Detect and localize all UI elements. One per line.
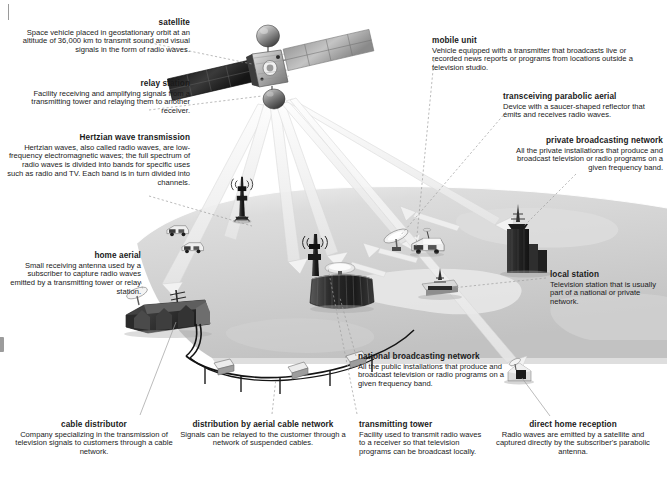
callout-title: mobile unit [432,36,648,46]
callout-home-aerial: home aerial Small receiving antenna used… [8,251,141,297]
callout-body: All the public installations that produc… [358,363,506,389]
callout-body: Television station that is usually part … [550,281,662,307]
callout-title: national broadcasting network [358,352,506,362]
callout-satellite: satellite Space vehicle placed in geosta… [10,18,190,55]
callout-mobile-unit: mobile unit Vehicle equipped with a tran… [432,36,648,73]
callout-title: satellite [10,18,190,28]
callout-local-station: local station Television station that is… [550,270,662,307]
callout-body: Radio waves are emitted by a satellite a… [487,431,659,457]
satellite-icon [167,25,373,109]
callout-hertzian-wave-transmission: Hertzian wave transmission Hertzian wave… [4,133,190,188]
callout-title: local station [550,270,662,280]
callout-cable-distributor: cable distributor Company specializing i… [14,420,174,457]
callout-title: relay station [10,79,190,89]
callout-national-broadcasting-network: national broadcasting network All the pu… [358,352,506,389]
callout-transceiving-parabolic-aerial: transceiving parabolic aerial Device wit… [503,92,663,120]
callout-body: Company specializing in the transmission… [14,431,174,457]
callout-body: Hertzian waves, also called radio waves,… [4,144,190,188]
callout-title: cable distributor [14,420,174,430]
callout-body: Space vehicle placed in geostationary or… [10,29,190,55]
callout-body: Facility used to transmit radio waves to… [359,431,487,457]
callout-distribution-by-aerial-cable-network: distribution by aerial cable network Sig… [178,420,348,448]
diagram-canvas: satellite Space vehicle placed in geosta… [0,0,667,485]
callout-body: All the private installations that produ… [497,147,663,173]
callout-body: Small receiving antenna used by a subscr… [8,262,141,297]
callout-body: Vehicle equipped with a transmitter that… [432,47,648,73]
callout-title: direct home reception [487,420,659,430]
callout-title: Hertzian wave transmission [4,133,190,143]
callout-title: transmitting tower [359,420,487,430]
callout-title: private broadcasting network [497,136,663,146]
callout-title: transceiving parabolic aerial [503,92,663,102]
callout-private-broadcasting-network: private broadcasting network All the pri… [497,136,663,173]
callout-body: Signals can be relayed to the customer t… [178,431,348,449]
callout-body: Facility receiving and amplifying signal… [10,90,190,116]
callout-body: Device with a saucer-shaped reflector th… [503,103,663,121]
callout-relay-station: relay station Facility receiving and amp… [10,79,190,116]
houses-row-icon [124,300,212,338]
callout-direct-home-reception: direct home reception Radio waves are em… [487,420,659,457]
callout-transmitting-tower: transmitting tower Facility used to tran… [359,420,487,457]
callout-title: distribution by aerial cable network [178,420,348,430]
callout-title: home aerial [8,251,141,261]
